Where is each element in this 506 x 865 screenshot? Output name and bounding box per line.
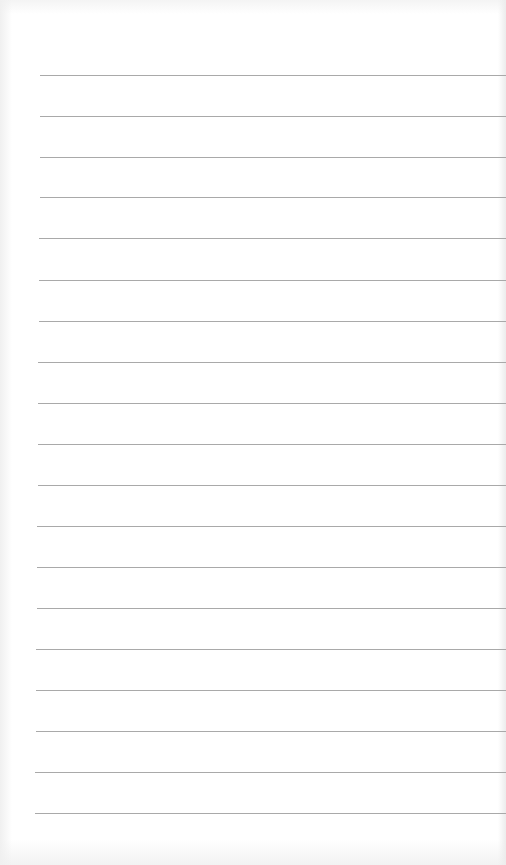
ruled-line xyxy=(38,362,506,363)
ruled-line xyxy=(38,403,506,404)
ruled-line xyxy=(35,772,506,773)
ruled-line xyxy=(39,321,506,322)
ruled-line xyxy=(40,75,506,76)
ruled-line xyxy=(39,238,506,239)
paper-right-edge-shadow xyxy=(498,0,506,865)
ruled-line xyxy=(39,280,506,281)
ruled-line xyxy=(36,649,506,650)
lined-paper-sheet xyxy=(0,0,506,865)
ruled-line xyxy=(37,526,506,527)
ruled-line xyxy=(40,116,506,117)
ruled-line xyxy=(36,731,506,732)
ruled-line xyxy=(38,485,506,486)
ruled-line xyxy=(40,157,506,158)
ruled-line xyxy=(37,608,506,609)
ruled-line xyxy=(36,690,506,691)
paper-left-edge-shadow xyxy=(0,0,12,865)
ruled-line xyxy=(40,197,506,198)
ruled-line xyxy=(37,567,506,568)
ruled-line xyxy=(35,813,506,814)
ruled-line xyxy=(38,444,506,445)
